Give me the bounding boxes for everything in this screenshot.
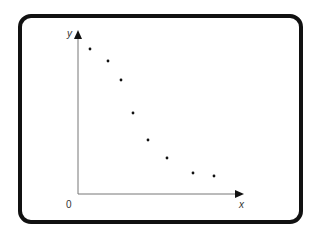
- scatter-plot: [0, 0, 317, 233]
- data-point: [213, 175, 216, 178]
- data-point: [166, 157, 169, 160]
- data-point: [89, 48, 92, 51]
- data-point: [107, 60, 110, 63]
- origin-label: 0: [66, 199, 72, 210]
- y-axis-label: y: [67, 28, 72, 39]
- data-point: [132, 112, 135, 115]
- data-point: [192, 172, 195, 175]
- data-point: [147, 139, 150, 142]
- y-axis-arrow-icon: [74, 30, 82, 39]
- x-axis-label: x: [239, 199, 244, 210]
- data-point: [120, 79, 123, 82]
- x-axis-arrow-icon: [235, 190, 244, 198]
- data-points: [89, 48, 216, 178]
